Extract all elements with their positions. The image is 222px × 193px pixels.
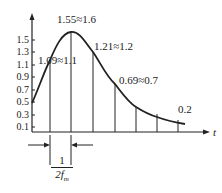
y-tick: 1.5 xyxy=(17,35,30,45)
x-axis-arrow-icon xyxy=(203,130,210,135)
y-tick: 0.1 xyxy=(17,122,30,132)
waveform-diagram xyxy=(0,0,222,193)
y-tick-labels: 0.1 0.3 0.5 0.7 0.9 1.1 1.3 1.5 xyxy=(0,0,29,140)
y-tick: 0.5 xyxy=(17,97,30,107)
y-tick: 1.3 xyxy=(17,47,30,57)
y-axis-arrow-icon xyxy=(30,13,35,20)
t-axis-label: t xyxy=(213,127,216,138)
y-tick: 0.7 xyxy=(17,85,30,95)
interval-label: 1 2fm xyxy=(51,155,73,183)
interval-denominator: 2fm xyxy=(51,168,73,183)
sample-label-5: 0.69≈0.7 xyxy=(119,75,158,86)
peak-label: 1.55≈1.6 xyxy=(57,14,96,25)
arrow-right-icon xyxy=(44,143,50,148)
sample-label-last: 0.2 xyxy=(178,104,192,115)
sample-label-1: 1.09≈1.1 xyxy=(38,55,77,66)
y-tick: 0.9 xyxy=(17,72,30,82)
interval-numerator: 1 xyxy=(51,155,73,168)
y-tick: 0.3 xyxy=(17,110,30,120)
y-tick: 1.1 xyxy=(17,60,30,70)
arrow-left-icon xyxy=(71,143,77,148)
sample-label-3: 1.21≈1.2 xyxy=(94,41,133,52)
